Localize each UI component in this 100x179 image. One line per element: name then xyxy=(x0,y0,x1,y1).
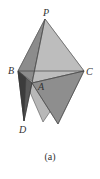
vertex-label-a: A xyxy=(38,82,44,92)
vertex-label-c: C xyxy=(86,67,93,77)
figure-caption: (a) xyxy=(0,152,100,162)
vertex-label-p: P xyxy=(43,8,49,18)
vertex-label-d: D xyxy=(19,125,26,135)
geometry-figure: P B C A D (a) xyxy=(0,0,100,179)
vertex-label-b: B xyxy=(8,66,14,76)
